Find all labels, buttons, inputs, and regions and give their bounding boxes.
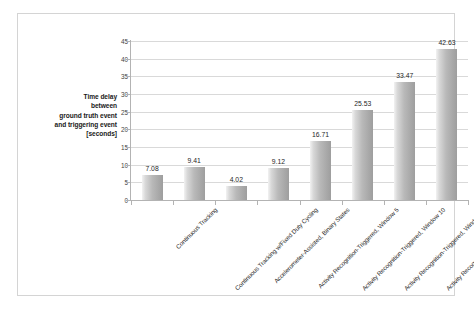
bar-value-label: 25.53	[354, 100, 371, 107]
gridline	[131, 94, 468, 95]
x-axis-tick-mark	[426, 201, 427, 205]
bar-value-label: 42.63	[438, 39, 455, 46]
y-axis-tick-mark	[126, 165, 130, 166]
x-axis-line	[126, 200, 469, 201]
y-axis-tick-mark	[126, 129, 130, 130]
gridline	[131, 182, 468, 183]
x-axis-tick-mark	[257, 201, 258, 205]
y-axis-tick-mark	[126, 59, 130, 60]
bar[interactable]	[310, 141, 331, 200]
bar[interactable]	[226, 186, 247, 200]
gridline	[131, 76, 468, 77]
y-axis-tick-mark	[126, 41, 130, 42]
bar[interactable]	[394, 82, 415, 200]
bar-value-label: 7.08	[145, 165, 158, 172]
bar-value-label: 33.47	[396, 72, 413, 79]
x-axis-tick-mark	[300, 201, 301, 205]
x-axis-tick-mark	[131, 201, 132, 205]
plot-area: 7.089.414.029.1216.7125.5333.4742.63	[131, 41, 468, 200]
y-axis-title-line-3: ground truth event	[20, 111, 117, 120]
y-axis-title-line-1: Time delay	[20, 92, 117, 101]
x-axis-category-label: Activity Recognition-Triggered, Window 1…	[360, 206, 446, 292]
bar[interactable]	[268, 168, 289, 200]
bar[interactable]	[436, 49, 457, 200]
bar-value-label: 16.71	[312, 131, 329, 138]
bar[interactable]	[352, 110, 373, 200]
y-axis-title: Time delay between ground truth event an…	[20, 92, 117, 138]
x-axis-tick-mark	[215, 201, 216, 205]
y-axis-tick-mark	[126, 94, 130, 95]
x-axis-tick-mark	[342, 201, 343, 205]
y-axis-title-line-5: [seconds]	[20, 129, 117, 138]
gridline	[131, 147, 468, 148]
y-axis-tick-labels: 051015202530354045	[110, 41, 128, 200]
y-axis-title-line-4: and triggering event	[20, 120, 117, 129]
x-axis-category-label: Continuous Tracking	[174, 206, 218, 250]
y-axis-tick-mark	[126, 76, 130, 77]
gridline	[131, 59, 468, 60]
y-axis-tick-mark	[126, 200, 130, 201]
gridline	[131, 41, 468, 42]
bar[interactable]	[184, 167, 205, 200]
bar-value-label: 4.02	[230, 176, 243, 183]
x-axis-tick-mark	[384, 201, 385, 205]
x-axis-tick-mark	[468, 201, 469, 205]
bar-value-label: 9.12	[272, 158, 285, 165]
x-axis-tick-mark	[173, 201, 174, 205]
y-axis-line	[130, 40, 131, 201]
y-axis-title-line-2: between	[20, 101, 117, 110]
bar-value-label: 9.41	[188, 157, 201, 164]
gridline	[131, 112, 468, 113]
chart-container: Time delay between ground truth event an…	[17, 13, 455, 296]
y-axis-tick-mark	[126, 112, 130, 113]
y-axis-tick-mark	[126, 182, 130, 183]
bar[interactable]	[142, 175, 163, 200]
gridline	[131, 165, 468, 166]
gridline	[131, 129, 468, 130]
x-axis-category-label: Activity Recognition-Triggered, Window 5	[317, 206, 400, 289]
y-axis-tick-mark	[126, 147, 130, 148]
